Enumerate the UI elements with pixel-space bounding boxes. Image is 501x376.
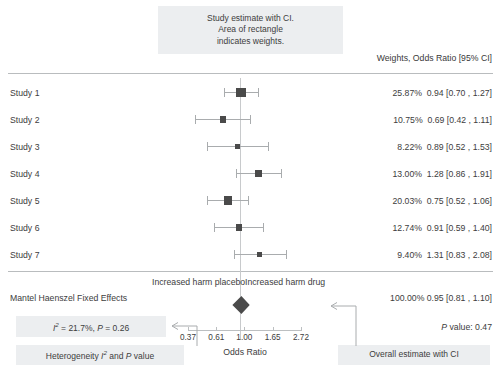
callout-line-2: Area of rectangle	[218, 24, 283, 36]
row-statistics: 20.03% 0.75 [0.52 , 1.06]	[392, 196, 492, 206]
heterogeneity-box: I2 = 21.7%, P = 0.26	[16, 316, 166, 337]
table-row: Study 4	[10, 169, 39, 179]
table-row: Study 7	[10, 250, 39, 260]
callout-line-1: Study estimate with CI.	[207, 13, 294, 25]
x-axis-tick-label: 0.61	[201, 333, 231, 342]
study-estimate-callout: Study estimate with CI. Area of rectangl…	[158, 6, 343, 54]
x-axis-tick	[188, 327, 189, 331]
row-statistics: 9.40% 1.31 [0.83 , 2.08]	[397, 250, 492, 260]
x-axis-title: Odds Ratio	[189, 347, 301, 357]
row-estimate: 0.75 [0.52 , 1.06]	[427, 196, 492, 206]
heterogeneity-annotation: Heterogeneity I2 and P value	[16, 345, 184, 365]
table-row: Study 2	[10, 115, 39, 125]
row-statistics: 10.75% 0.69 [0.42 , 1.11]	[393, 115, 492, 125]
row-weight: 12.74%	[392, 223, 421, 233]
row-estimate: 1.28 [0.86 , 1.91]	[427, 169, 492, 179]
x-axis-tick	[273, 327, 274, 331]
row-estimate: 0.91 [0.59 , 1.40]	[427, 223, 492, 233]
x-axis-tick	[216, 327, 217, 331]
x-axis-tick	[301, 327, 302, 331]
table-row: Study 3	[10, 142, 39, 152]
x-axis-tick-label: 0.37	[173, 333, 203, 342]
forest-plot-area	[150, 78, 335, 348]
row-weight: 9.40%	[397, 250, 422, 260]
overall-p-value: P value: 0.47	[441, 322, 492, 332]
harm-label-drug: Increased harm drug	[245, 277, 325, 287]
row-estimate: 0.94 [0.70 , 1.27]	[427, 88, 492, 98]
row-statistics: 25.87% 0.94 [0.70 , 1.27]	[392, 88, 492, 98]
row-weight: 13.00%	[392, 169, 421, 179]
x-axis-tick-label: 2.72	[286, 333, 316, 342]
row-weight: 10.75%	[393, 115, 422, 125]
model-label: Mantel Haenszel Fixed Effects	[10, 293, 127, 303]
table-column-header: Weights, Odds Ratio [95% CI]	[377, 53, 492, 63]
row-estimate: 0.89 [0.52 , 1.53]	[427, 142, 492, 152]
row-estimate: 0.69 [0.42 , 1.11]	[427, 115, 492, 125]
harm-label-placebo: Increased harm placebo	[152, 277, 245, 287]
overall-statistics: 100.00% 0.95 [0.81 , 1.10]	[390, 293, 492, 303]
heterogeneity-text: I2 = 21.7%, P = 0.26	[53, 319, 129, 334]
x-axis-tick	[244, 327, 245, 331]
x-axis-tick-label: 1.65	[258, 333, 288, 342]
header-divider	[8, 73, 493, 74]
x-axis-tick-label: 1.00	[229, 333, 259, 342]
row-statistics: 12.74% 0.91 [0.59 , 1.40]	[392, 223, 492, 233]
table-row: Study 6	[10, 223, 39, 233]
row-estimate: 1.31 [0.83 , 2.08]	[427, 250, 492, 260]
row-weight: 8.22%	[397, 142, 422, 152]
row-weight: 25.87%	[392, 88, 421, 98]
overall-estimate-annotation: Overall estimate with CI	[338, 345, 490, 365]
forest-plot-figure: Study estimate with CI. Area of rectangl…	[0, 0, 501, 376]
row-weight: 20.03%	[392, 196, 421, 206]
table-row: Study 5	[10, 196, 39, 206]
table-row: Study 1	[10, 88, 39, 98]
callout-line-3: indicates weights.	[217, 36, 284, 48]
row-statistics: 8.22% 0.89 [0.52 , 1.53]	[397, 142, 492, 152]
row-statistics: 13.00% 1.28 [0.86 , 1.91]	[392, 169, 492, 179]
